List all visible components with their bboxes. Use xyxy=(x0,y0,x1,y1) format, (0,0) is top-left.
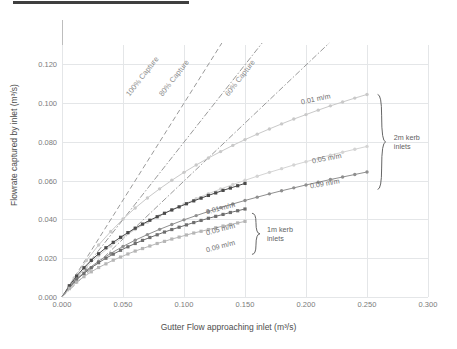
y-axis-title: Flowrate captured by inlet (m³/s) xyxy=(9,35,19,255)
series-marker xyxy=(82,272,85,275)
series-marker xyxy=(97,243,100,246)
series-marker xyxy=(353,96,356,99)
series-marker xyxy=(178,205,181,208)
series-marker xyxy=(231,144,234,147)
series-marker xyxy=(365,93,368,96)
series-marker xyxy=(329,104,332,107)
series-marker xyxy=(75,274,78,277)
series-marker xyxy=(104,262,107,265)
series-marker xyxy=(292,117,295,120)
series-marker xyxy=(134,206,137,209)
series-marker xyxy=(268,192,271,195)
series-marker xyxy=(82,275,85,278)
series-marker xyxy=(146,233,149,236)
series-marker xyxy=(243,207,246,210)
series-lines-group xyxy=(62,93,369,297)
series-marker xyxy=(243,138,246,141)
series-marker xyxy=(68,287,71,290)
group-bracket xyxy=(378,94,386,189)
group-bracket-label-line1: 1m kerb xyxy=(267,225,293,234)
series-marker xyxy=(280,189,283,192)
series-marker xyxy=(121,245,124,248)
x-tick-label: 0.300 xyxy=(419,300,438,309)
chart-stage: 0.0000.0200.0400.0600.0800.1000.120 Gutt… xyxy=(0,0,457,349)
series-marker xyxy=(341,175,344,178)
series-marker xyxy=(109,230,112,233)
series-marker xyxy=(353,173,356,176)
series-marker xyxy=(192,221,195,224)
series-marker xyxy=(365,145,368,148)
series-marker xyxy=(90,266,93,269)
series-marker xyxy=(304,113,307,116)
series-marker xyxy=(134,239,137,242)
series-marker xyxy=(353,148,356,151)
series-marker xyxy=(292,186,295,189)
series-marker xyxy=(317,108,320,111)
series-marker xyxy=(195,214,198,217)
series-marker xyxy=(256,195,259,198)
series-marker xyxy=(119,249,122,252)
group-bracket-label-line1: 2m kerb xyxy=(394,133,420,142)
series-marker xyxy=(75,280,78,283)
series-marker xyxy=(341,100,344,103)
series-marker xyxy=(243,182,246,185)
series-marker xyxy=(229,186,232,189)
x-tick-label: 0.200 xyxy=(297,300,316,309)
x-axis-title: Gutter Flow approaching inlet (m³/s) xyxy=(0,322,457,332)
group-bracket-label: 1m kerbinlets xyxy=(267,225,293,243)
series-marker xyxy=(185,202,188,205)
x-tick-label: 0.250 xyxy=(358,300,377,309)
series-line xyxy=(62,94,367,297)
series-marker xyxy=(185,223,188,226)
series-marker xyxy=(280,122,283,125)
series-marker xyxy=(119,236,122,239)
series-marker xyxy=(148,244,151,247)
series-marker xyxy=(178,236,181,239)
series-marker xyxy=(214,191,217,194)
series-marker xyxy=(182,171,185,174)
series-marker xyxy=(207,156,210,159)
series-marker xyxy=(199,219,202,222)
series-marker xyxy=(268,171,271,174)
series-marker xyxy=(141,247,144,250)
series-marker xyxy=(126,245,129,248)
series-marker xyxy=(148,236,151,239)
series-marker xyxy=(182,218,185,221)
series-line xyxy=(62,146,367,297)
series-marker xyxy=(185,233,188,236)
x-tick-label: 0.050 xyxy=(114,300,133,309)
series-marker xyxy=(243,179,246,182)
series-marker xyxy=(156,242,159,245)
series-marker xyxy=(192,231,195,234)
series-marker xyxy=(192,199,195,202)
group-bracket-label-line2: inlets xyxy=(267,234,293,243)
series-marker xyxy=(170,179,173,182)
series-marker xyxy=(304,160,307,163)
series-marker xyxy=(112,259,115,262)
series-marker xyxy=(97,261,100,264)
series-marker xyxy=(158,228,161,231)
series-marker xyxy=(104,246,107,249)
series-line xyxy=(62,183,245,297)
series-marker xyxy=(256,132,259,135)
series-marker xyxy=(170,208,173,211)
series-marker xyxy=(156,233,159,236)
series-marker xyxy=(163,230,166,233)
series-marker xyxy=(214,215,217,218)
series-marker xyxy=(104,257,107,260)
series-marker xyxy=(141,239,144,242)
series-marker xyxy=(256,175,259,178)
series-marker xyxy=(90,270,93,273)
series-marker xyxy=(199,230,202,233)
series-marker xyxy=(126,231,129,234)
series-marker xyxy=(221,189,224,192)
chart-svg-layer xyxy=(0,0,457,349)
series-marker xyxy=(82,266,85,269)
series-marker xyxy=(243,220,246,223)
series-marker xyxy=(85,259,88,262)
series-marker xyxy=(119,255,122,258)
series-marker xyxy=(156,215,159,218)
series-marker xyxy=(170,228,173,231)
series-marker xyxy=(219,150,222,153)
series-marker xyxy=(146,196,149,199)
